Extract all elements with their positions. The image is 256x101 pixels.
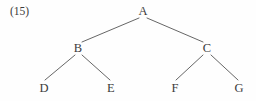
tree-edge-c-g [211,55,238,80]
tree-node-f: F [171,82,178,95]
tree-edge-c-f [176,55,203,80]
tree-edge-b-d [45,55,75,80]
tree-node-g: G [234,82,243,95]
tree-diagram: (15) ABCDEFG [0,0,256,101]
tree-edge-a-c [147,18,203,42]
tree-edge-a-b [82,18,139,42]
tree-node-a: A [138,5,147,18]
example-number-label: (15) [10,6,29,18]
tree-node-c: C [203,42,212,55]
tree-edge-b-e [82,55,110,80]
tree-node-e: E [107,82,115,95]
tree-node-d: D [39,82,48,95]
tree-node-b: B [74,42,83,55]
